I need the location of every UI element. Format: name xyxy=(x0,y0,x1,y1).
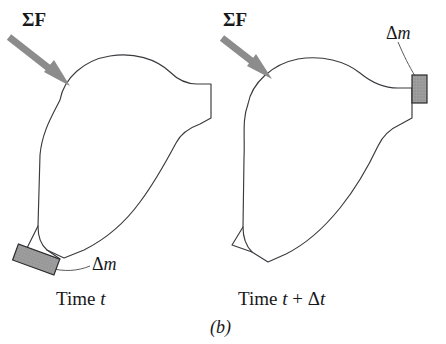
caption-time-t-dt-prefix: Time xyxy=(238,288,282,309)
panel-label: (b) xyxy=(210,318,231,336)
mass-label-time-t-dt: Δm xyxy=(386,24,411,42)
mass-leader-line-time-t-dt xyxy=(398,42,415,76)
balloon-outline-time-t-dt xyxy=(243,58,412,262)
caption-time-t-var: t xyxy=(100,288,105,309)
physics-figure: ΣF Δm Time t ΣF Δm Time t + Δt (b) xyxy=(0,0,446,344)
mass-label-time-t: Δm xyxy=(92,255,117,273)
caption-time-t-dt-plus: + xyxy=(287,288,307,309)
caption-time-t-prefix: Time xyxy=(56,288,100,309)
caption-time-t-dt-delta: Δ xyxy=(308,288,320,309)
caption-time-t: Time t xyxy=(56,289,105,308)
mass-label-m-time-t-dt: m xyxy=(398,23,411,43)
force-label-time-t: ΣF xyxy=(22,10,46,29)
mass-label-delta-time-t-dt: Δ xyxy=(386,23,398,43)
mass-element-block-time-t-dt xyxy=(412,75,427,103)
mass-label-m-time-t: m xyxy=(104,254,117,274)
balloon-outline-time-t xyxy=(38,55,211,258)
force-arrow-time-t-dt xyxy=(222,38,272,79)
mass-label-delta-time-t: Δ xyxy=(92,254,104,274)
panel-time-t xyxy=(9,37,211,275)
caption-time-t-dt: Time t + Δt xyxy=(238,289,325,308)
force-arrow-time-t xyxy=(9,37,70,86)
caption-time-t-dt-var2: t xyxy=(320,288,325,309)
force-label-time-t-dt: ΣF xyxy=(223,10,247,29)
panel-time-t-plus-dt xyxy=(222,38,427,262)
